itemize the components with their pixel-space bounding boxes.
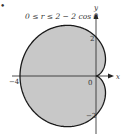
y-axis-label: y	[93, 4, 99, 12]
cardioid-diagram: • 0 ≤ r ≤ 2 − 2 cos θ y x 0 −4 2 −2	[0, 0, 133, 140]
tick-label-y-2: 2	[90, 35, 94, 43]
bullet: •	[0, 1, 5, 11]
tick-label-y-neg2: −2	[86, 112, 96, 120]
x-axis-arrow-icon	[108, 74, 114, 79]
origin-label: 0	[88, 79, 92, 87]
x-axis-label: x	[116, 73, 120, 81]
tick-label-x-neg4: −4	[9, 78, 20, 86]
chart-title: 0 ≤ r ≤ 2 − 2 cos θ	[25, 12, 98, 21]
